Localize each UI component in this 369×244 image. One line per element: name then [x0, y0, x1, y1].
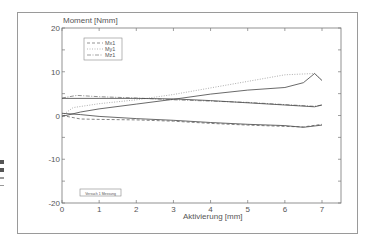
legend-entry: Mz1 [105, 52, 115, 58]
series-line [62, 74, 322, 117]
y-tick-label: -10 [48, 155, 60, 164]
x-tick-label: 5 [245, 205, 250, 214]
y-axis-label: Moment [Nmm] [63, 16, 118, 25]
series-line [62, 74, 322, 116]
y-tick-label: -20 [48, 199, 60, 208]
x-tick-label: 7 [320, 205, 325, 214]
y-tick-label: 10 [51, 68, 60, 77]
x-tick-label: 1 [97, 205, 102, 214]
annotation-box: Versuch 1 Messung [80, 189, 121, 196]
x-tick-label: 3 [171, 205, 176, 214]
y-tick-label: 0 [56, 112, 61, 121]
y-tick-label: 20 [51, 24, 60, 33]
x-tick-label: 2 [134, 205, 139, 214]
series-line [62, 113, 322, 127]
legend: Mx1My1Mz1 [84, 38, 122, 60]
x-tick-label: 4 [208, 205, 213, 214]
line-chart: Moment [Nmm] Aktivierung [mm] 0123456720… [0, 0, 369, 244]
series-line [62, 98, 322, 106]
svg-text:Versuch 1 Messung: Versuch 1 Messung [85, 192, 116, 196]
series-lines [62, 74, 322, 128]
x-tick-label: 6 [283, 205, 288, 214]
x-tick-label: 0 [60, 205, 65, 214]
